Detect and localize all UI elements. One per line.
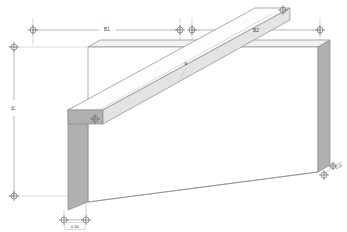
dim-label-b2: B2 xyxy=(253,28,259,33)
dim-label-b1: B1 xyxy=(104,27,110,32)
vertex-marker[interactable] xyxy=(28,25,38,35)
cad-drawing-canvas[interactable]: B1 B2 H 0.40 B 0.28 xyxy=(0,0,347,232)
dim-label-thickness: 0.40 xyxy=(71,224,80,229)
drawing-svg: B1 B2 H 0.40 B 0.28 xyxy=(0,0,347,232)
wall-front-face xyxy=(88,47,318,202)
beam-end-face xyxy=(68,110,103,124)
vertex-marker[interactable] xyxy=(187,25,197,35)
dim-label-beam: B xyxy=(185,61,188,66)
vertex-marker[interactable] xyxy=(175,25,185,35)
dim-label-height: H xyxy=(11,106,16,109)
vertex-marker[interactable] xyxy=(315,25,325,35)
vertex-marker[interactable] xyxy=(9,42,19,52)
vertex-marker[interactable] xyxy=(9,191,19,201)
right-end-slab xyxy=(318,40,330,172)
